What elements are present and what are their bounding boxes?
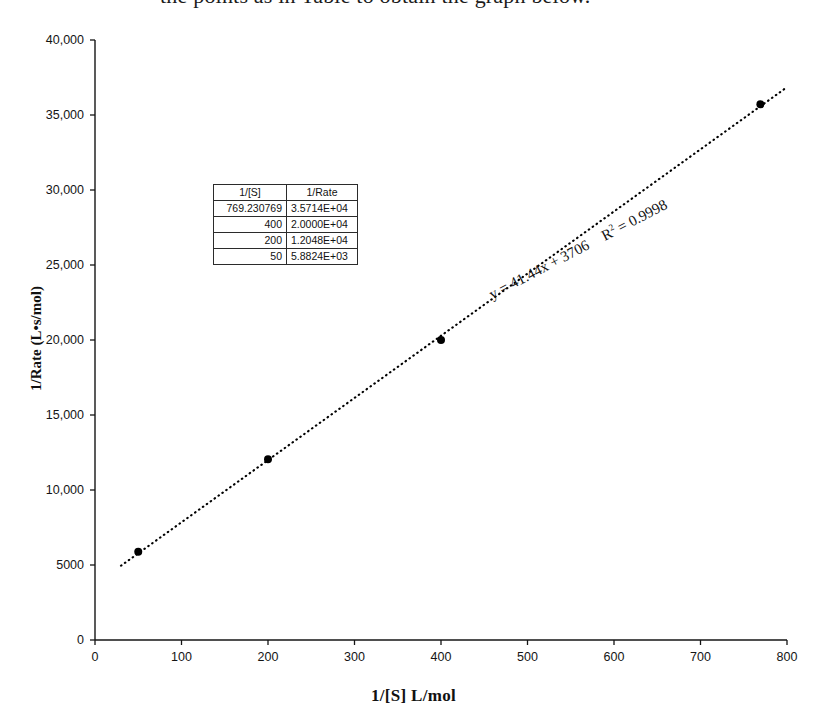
table-cell-x: 50 (214, 249, 287, 265)
x-axis-tick-label: 300 (344, 650, 365, 664)
y-axis-title: 1/Rate (L•s/mol) (28, 239, 45, 439)
x-axis-tick-label: 200 (258, 650, 279, 664)
table-cell-y: 2.0000E+04 (287, 217, 358, 233)
x-axis-ticks (95, 640, 787, 645)
x-axis-tick-label: 0 (92, 650, 99, 664)
inset-data-table: 1/[S] 1/Rate 769.2307693.5714E+044002.00… (213, 184, 358, 265)
data-point (756, 100, 764, 108)
table-cell-y: 1.2048E+04 (287, 233, 358, 249)
table-cell-y: 5.8824E+03 (287, 249, 358, 265)
x-axis-title: 1/[S] L/mol (0, 686, 827, 706)
plot-svg (0, 18, 827, 726)
data-point-markers (134, 100, 764, 555)
page-top-sentence-clip: the points as in Table to obtain the gra… (0, 0, 827, 16)
x-axis-tick-label: 100 (171, 650, 192, 664)
table-header-y: 1/Rate (287, 185, 358, 201)
table-header-row: 1/[S] 1/Rate (214, 185, 358, 201)
x-axis-tick-label: 600 (604, 650, 625, 664)
y-axis-ticks (90, 40, 95, 640)
table-cell-x: 769.230769 (214, 201, 287, 217)
x-axis-tick-label: 500 (517, 650, 538, 664)
table-row: 4002.0000E+04 (214, 217, 358, 233)
y-axis-tick-label: 40,000 (0, 33, 84, 47)
table-row: 505.8824E+03 (214, 249, 358, 265)
x-axis-tick-label: 400 (431, 650, 452, 664)
table-row: 2001.2048E+04 (214, 233, 358, 249)
data-point (134, 548, 142, 556)
y-axis-tick-label: 0 (0, 633, 84, 647)
y-axis-tick-label: 5000 (0, 558, 84, 572)
y-axis-tick-label: 35,000 (0, 108, 84, 122)
y-axis-tick-label: 10,000 (0, 483, 84, 497)
y-axis-tick-label: 30,000 (0, 183, 84, 197)
data-point (264, 455, 272, 463)
data-point (437, 336, 445, 344)
page-top-sentence: the points as in Table to obtain the gra… (160, 0, 590, 9)
x-axis-tick-label: 700 (690, 650, 711, 664)
table-header-x: 1/[S] (214, 185, 287, 201)
table-cell-y: 3.5714E+04 (287, 201, 358, 217)
table-cell-x: 200 (214, 233, 287, 249)
table-row: 769.2307693.5714E+04 (214, 201, 358, 217)
chart-container: 0500010,00015,00020,00025,00030,00035,00… (0, 18, 827, 726)
table-cell-x: 400 (214, 217, 287, 233)
trendline (121, 87, 787, 566)
x-axis-tick-label: 800 (777, 650, 798, 664)
